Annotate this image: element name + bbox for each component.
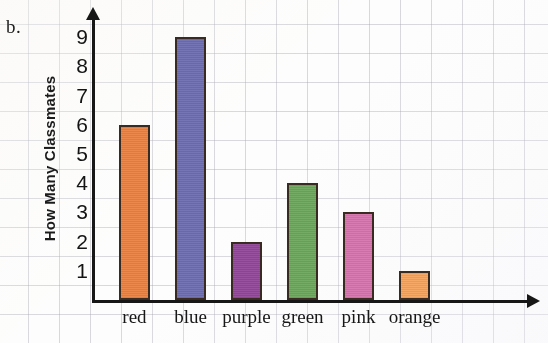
- x-tick-label-orange: orange: [365, 306, 465, 328]
- y-tick-label-3: 3: [66, 201, 88, 222]
- y-tick-label-4: 4: [66, 172, 88, 193]
- x-axis-line: [92, 300, 530, 303]
- bar-pink: [343, 212, 374, 300]
- bar-orange: [399, 271, 430, 300]
- y-tick-label-8: 8: [66, 55, 88, 76]
- y-tick-label-2: 2: [66, 231, 88, 252]
- problem-label: b.: [6, 16, 21, 38]
- y-tick-label-1: 1: [66, 260, 88, 281]
- y-tick-label-5: 5: [66, 143, 88, 164]
- plot-area: [95, 18, 530, 300]
- bar-blue: [175, 37, 206, 300]
- y-tick-label-9: 9: [66, 26, 88, 47]
- y-tick-label-6: 6: [66, 114, 88, 135]
- y-tick-label-7: 7: [66, 85, 88, 106]
- y-axis-tick-labels: 123456789: [58, 0, 88, 343]
- y-axis-title: How Many Classmates: [41, 44, 58, 274]
- bar-green: [287, 183, 318, 300]
- worksheet-bar-chart: b. 123456789 How Many Classmates redblue…: [0, 0, 548, 343]
- bar-purple: [231, 242, 262, 300]
- bar-red: [119, 125, 150, 300]
